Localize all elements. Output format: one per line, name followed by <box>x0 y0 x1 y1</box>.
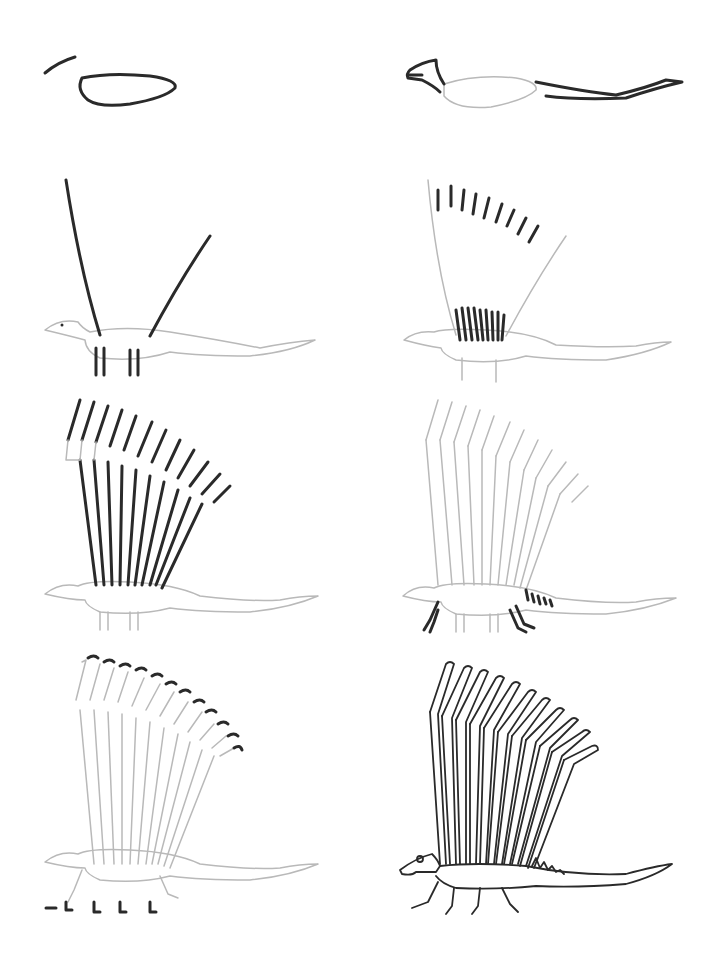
step-1-panel <box>0 0 356 160</box>
step-3-panel <box>0 160 356 390</box>
step-1-drawing <box>0 0 356 160</box>
step-4-panel <box>356 160 712 390</box>
step-2-panel <box>356 0 712 160</box>
step-4-drawing <box>356 160 712 390</box>
step-8-panel <box>356 640 712 967</box>
step-2-drawing <box>356 0 712 160</box>
step-6-drawing <box>356 390 712 640</box>
step-7-drawing <box>0 640 356 967</box>
step-7-panel <box>0 640 356 967</box>
step-5-drawing <box>0 390 356 640</box>
step-8-drawing <box>356 640 712 967</box>
step-6-panel <box>356 390 712 640</box>
step-3-drawing <box>0 160 356 390</box>
step-5-panel <box>0 390 356 640</box>
